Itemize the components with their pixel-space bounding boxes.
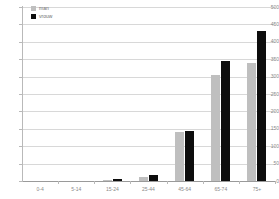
bar-man-45-64 — [175, 132, 184, 181]
bar-vrouw-75+ — [257, 31, 266, 181]
y-axis-tick-mark — [19, 181, 23, 182]
x-axis-tick-mark — [130, 181, 131, 184]
x-axis-tick-label: 5-14 — [58, 186, 94, 192]
x-axis-tick-mark — [167, 181, 168, 184]
bar-vrouw-15-24 — [113, 179, 122, 181]
bar-man-75+ — [247, 63, 256, 181]
x-axis-tick-mark — [203, 181, 204, 184]
bar-man-15-24 — [103, 180, 112, 181]
legend-label: vrouw — [39, 14, 52, 19]
plot-area — [22, 7, 275, 181]
bar-chart: 500450400350300250200150100500 0-45-1415… — [0, 0, 279, 199]
legend-item-man[interactable]: man — [31, 5, 52, 12]
x-axis-line — [22, 181, 275, 182]
bar-man-25-44 — [139, 177, 148, 181]
x-axis-tick-mark — [275, 181, 276, 184]
bar-vrouw-25-44 — [149, 175, 158, 181]
legend-swatch-icon — [31, 6, 36, 11]
x-axis-tick-label: 75+ — [239, 186, 275, 192]
legend-item-vrouw[interactable]: vrouw — [31, 13, 52, 20]
bar-vrouw-45-64 — [185, 131, 194, 181]
legend-label: man — [39, 6, 49, 11]
chart-legend: manvrouw — [31, 5, 52, 21]
x-axis-tick-mark — [58, 181, 59, 184]
legend-swatch-icon — [31, 14, 36, 19]
x-axis-tick-mark — [239, 181, 240, 184]
x-axis-tick-label: 45-64 — [167, 186, 203, 192]
x-axis-tick-label: 0-4 — [22, 186, 58, 192]
x-axis-tick-label: 25-44 — [130, 186, 166, 192]
x-axis-tick-label: 15-24 — [94, 186, 130, 192]
bar-man-65-74 — [211, 75, 220, 181]
bar-vrouw-65-74 — [221, 61, 230, 181]
x-axis-tick-mark — [94, 181, 95, 184]
x-axis-tick-label: 65-74 — [203, 186, 239, 192]
